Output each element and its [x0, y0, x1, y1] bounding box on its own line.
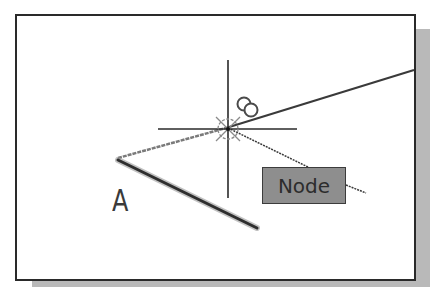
- snap-tooltip-label: Node: [278, 174, 330, 198]
- snap-tooltip-node: Node: [262, 167, 346, 204]
- snap-cursor-badge-icon: [238, 98, 258, 117]
- line-segment-lower: [118, 160, 257, 228]
- line-segment-right: [226, 70, 414, 128]
- tooltip-leader: [228, 128, 308, 167]
- line-segment-left: [118, 128, 226, 158]
- tooltip-leader-tail: [346, 185, 366, 193]
- drawing-canvas[interactable]: [0, 0, 436, 295]
- point-label-a: A: [112, 186, 128, 216]
